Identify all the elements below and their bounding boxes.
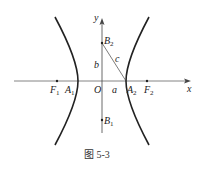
label-b: b: [94, 59, 99, 70]
segment-c: [102, 43, 126, 81]
point-B2: [101, 42, 103, 44]
x-axis-label: x: [186, 83, 192, 94]
label-c: c: [115, 53, 120, 64]
point-B1: [101, 119, 103, 121]
figure-caption: 图 5-3: [84, 149, 110, 160]
label-B2: B2: [104, 35, 114, 48]
origin-label: O: [94, 84, 101, 95]
label-A1: A1: [64, 84, 75, 97]
hyperbola-diagram: x y O F1 A1 A2 F2 B2 B1 b a c 图 5-3: [0, 0, 205, 171]
point-F2: [146, 80, 148, 82]
point-F1: [56, 80, 58, 82]
label-F1: F1: [49, 84, 60, 97]
label-F2: F2: [143, 84, 154, 97]
y-axis-label: y: [93, 12, 99, 23]
label-a: a: [112, 84, 117, 95]
label-B1: B1: [104, 115, 114, 128]
